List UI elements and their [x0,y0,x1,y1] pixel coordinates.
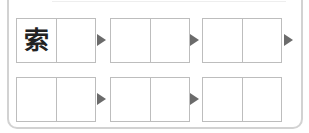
word-chain-box-2 [110,18,190,63]
arrow-right-icon [97,93,106,105]
arrow-right-icon [284,34,293,46]
word-chain-box-3 [202,18,282,63]
word-chain-box-5 [110,77,190,122]
char-cell[interactable] [17,78,56,121]
word-chain-box-1: 索 [16,18,96,63]
word-chain-box-4 [16,77,96,122]
char-cell[interactable] [150,78,190,121]
char-cell[interactable] [203,19,242,62]
char-cell[interactable] [111,19,150,62]
char-cell[interactable]: 索 [17,19,56,62]
char-cell[interactable] [150,19,190,62]
char-cell[interactable] [111,78,150,121]
char-cell[interactable] [242,78,282,121]
char-cell[interactable] [203,78,242,121]
char-cell[interactable] [56,78,96,121]
arrow-right-icon [97,34,106,46]
arrow-right-icon [190,34,199,46]
char-cell[interactable] [56,19,96,62]
arrow-right-icon [190,93,199,105]
char-cell[interactable] [242,19,282,62]
word-chain-box-6 [202,77,282,122]
